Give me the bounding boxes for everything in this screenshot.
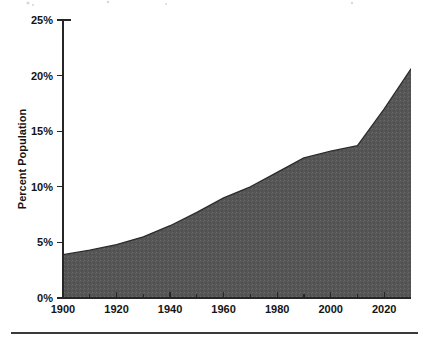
area-series-percent-population — [63, 69, 411, 298]
y-axis: 0%5%10%15%20%25% — [31, 14, 63, 304]
x-tick-label: 1980 — [265, 303, 289, 315]
chart-figure: 0%5%10%15%20%25% 19001920194019601980200… — [0, 0, 427, 344]
x-tick-label: 2000 — [318, 303, 342, 315]
x-tick-label: 1960 — [211, 303, 235, 315]
x-tick-label: 1900 — [51, 303, 75, 315]
y-tick-label: 25% — [31, 14, 53, 26]
y-tick-label: 10% — [31, 181, 53, 193]
x-tick-label: 2020 — [372, 303, 396, 315]
scan-artifacts — [26, 1, 353, 6]
y-tick-label: 15% — [31, 125, 53, 137]
y-tick-label: 5% — [37, 236, 53, 248]
x-tick-label: 1940 — [158, 303, 182, 315]
y-axis-title: Percent Population — [16, 109, 28, 210]
area-chart: 0%5%10%15%20%25% 19001920194019601980200… — [0, 0, 427, 344]
y-tick-label: 20% — [31, 70, 53, 82]
x-tick-label: 1920 — [104, 303, 128, 315]
